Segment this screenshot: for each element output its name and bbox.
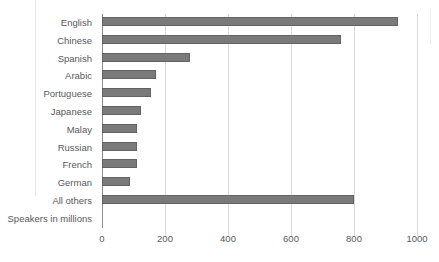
bar-row [102,192,417,210]
category-axis-labels: EnglishChineseSpanishArabicPortugueseJap… [0,14,97,228]
category-label: Chinese [0,32,97,50]
bar [102,106,141,115]
bar-row [102,156,417,174]
bar [102,195,354,204]
bar-row [102,14,417,32]
x-tick-label: 600 [283,233,299,244]
gridline [417,14,418,236]
x-tick-label: 800 [346,233,362,244]
bar-row [102,50,417,68]
bar [102,35,341,44]
bar [102,124,137,133]
bar [102,142,137,151]
bar [102,88,151,97]
category-label: English [0,14,97,32]
category-label: German [0,174,97,192]
bar-row [102,103,417,121]
bar-row [102,32,417,50]
x-tick-label: 0 [99,233,104,244]
bar-row [102,121,417,139]
x-tick-label: 400 [220,233,236,244]
bar-row [102,85,417,103]
x-tick-label: 200 [157,233,173,244]
category-label: Malay [0,121,97,139]
bar-row [102,139,417,157]
category-label: Spanish [0,50,97,68]
category-label: French [0,156,97,174]
bar-row [102,67,417,85]
bar [102,70,156,79]
category-label: Japanese [0,103,97,121]
plot-area [102,14,417,228]
x-axis-caption: Speakers in millions [0,210,97,228]
category-label: Russian [0,139,97,157]
x-tick-label: 1000 [406,233,427,244]
bar [102,17,398,26]
frame-rule-right [430,8,431,44]
category-label: All others [0,192,97,210]
bar [102,53,190,62]
bar-row [102,174,417,192]
category-label: Portuguese [0,85,97,103]
bar [102,159,137,168]
bar-series [102,14,417,228]
bar [102,177,130,186]
category-label: Arabic [0,67,97,85]
bar-chart: EnglishChineseSpanishArabicPortugueseJap… [0,0,439,262]
